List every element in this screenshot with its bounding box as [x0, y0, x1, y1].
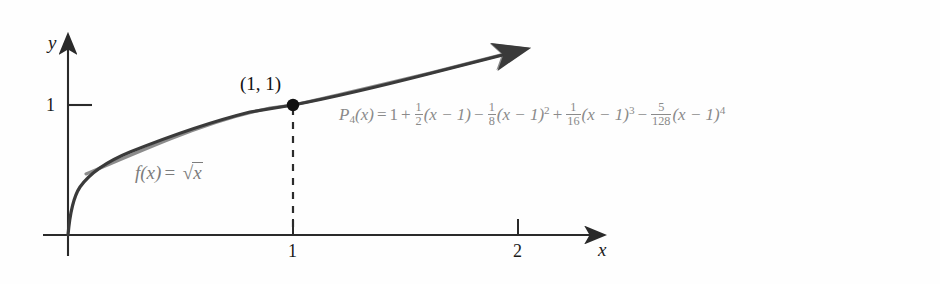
poly-term-4-power: 4	[720, 104, 726, 116]
radicand: x	[192, 162, 202, 182]
sqrt-curve	[68, 50, 522, 235]
poly-term-3-body: (x − 1)	[582, 105, 629, 124]
x-tick-label-1: 1	[288, 242, 297, 260]
poly-term-1-sign: +	[398, 105, 414, 124]
y-tick-label-1: 1	[46, 96, 55, 114]
poly-term-0-coefficient: 1	[389, 105, 398, 124]
poly-term-1-denominator: 2	[415, 115, 423, 128]
point-coordinate-label: (1, 1)	[240, 74, 281, 93]
poly-term-2-power: 2	[544, 104, 550, 116]
poly-term-1-body: (x − 1)	[424, 105, 471, 124]
polynomial-name: P	[339, 105, 349, 124]
poly-term-3-sign: +	[550, 105, 566, 124]
x-tick-label-2: 2	[513, 242, 522, 260]
poly-term-3-fraction: 116	[566, 101, 580, 127]
function-arg: (x)	[140, 162, 161, 183]
y-axis-label: y	[48, 33, 56, 52]
poly-term-1-fraction: 12	[415, 101, 423, 127]
poly-term-3-numerator: 1	[566, 101, 580, 115]
poly-term-4-fraction: 5128	[651, 101, 671, 127]
figure-container: y x 1 1 2 (1, 1) f(x)= √x P4(x)=1+12(x −…	[0, 0, 940, 284]
function-label: f(x)= √x	[135, 162, 203, 182]
poly-term-4-body: (x − 1)	[672, 105, 719, 124]
point-marker	[287, 99, 299, 111]
poly-term-2-sign: −	[471, 105, 487, 124]
poly-term-2-denominator: 8	[488, 115, 496, 128]
radical-icon: √x	[183, 162, 203, 182]
poly-term-1-numerator: 1	[415, 101, 423, 115]
poly-term-2-numerator: 1	[488, 101, 496, 115]
polynomial-arg: (x)	[355, 105, 374, 124]
function-equals: =	[161, 162, 178, 183]
poly-term-2-body: (x − 1)	[497, 105, 544, 124]
poly-term-3-denominator: 16	[566, 115, 580, 128]
poly-term-4-numerator: 5	[651, 101, 671, 115]
poly-term-2-fraction: 18	[488, 101, 496, 127]
plot-svg	[0, 0, 940, 284]
x-axis-label: x	[598, 240, 606, 259]
poly-term-4-sign: −	[634, 105, 650, 124]
poly-term-4-denominator: 128	[651, 115, 671, 128]
polynomial-equals: =	[374, 105, 390, 124]
polynomial-label: P4(x)=1+12(x − 1)−18(x − 1)2+116(x − 1)3…	[339, 101, 725, 127]
